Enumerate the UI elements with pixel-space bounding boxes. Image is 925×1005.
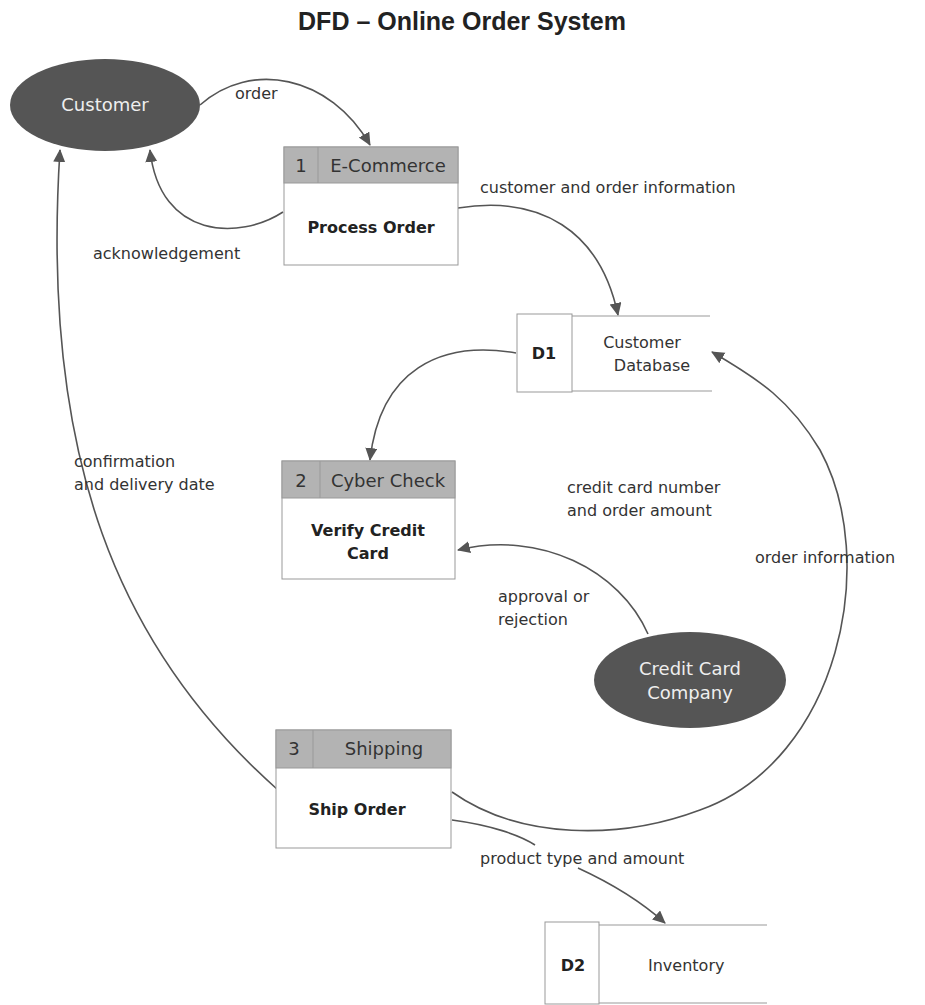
- data-store-d2-name: Inventory: [648, 956, 724, 975]
- process-3-ship-order[interactable]: 3 Shipping Ship Order: [276, 730, 451, 848]
- process-2-name-1: Verify Credit: [311, 521, 425, 540]
- data-store-d1-name-1: Customer: [603, 333, 681, 352]
- entity-ccc-label-1: Credit Card: [639, 658, 741, 679]
- flow-label-credit-card-number-1: credit card number: [567, 478, 721, 497]
- process-3-owner: Shipping: [345, 738, 424, 759]
- process-1-number: 1: [295, 155, 306, 176]
- data-store-d1-id: D1: [532, 344, 556, 363]
- process-1-owner: E-Commerce: [330, 155, 446, 176]
- process-2-verify-credit-card[interactable]: 2 Cyber Check Verify Credit Card: [282, 461, 455, 579]
- entity-credit-card-company[interactable]: Credit Card Company: [594, 632, 786, 728]
- process-3-number: 3: [288, 738, 299, 759]
- flow-label-order: order: [235, 84, 278, 103]
- flow-label-order-information: order information: [755, 548, 895, 567]
- entity-ccc-label-2: Company: [647, 682, 733, 703]
- flow-label-approval-1: approval or: [498, 587, 590, 606]
- data-store-d1-name-2: Database: [614, 356, 690, 375]
- flow-label-acknowledgement: acknowledgement: [93, 244, 240, 263]
- flow-label-customer-order-info: customer and order information: [480, 178, 736, 197]
- data-store-d1-customer-database[interactable]: D1 Customer Database: [517, 314, 712, 392]
- process-1-process-order[interactable]: 1 E-Commerce Process Order: [284, 147, 458, 265]
- flow-label-approval-2: rejection: [498, 610, 568, 629]
- entity-customer-label: Customer: [61, 94, 149, 115]
- diagram-title: DFD – Online Order System: [298, 7, 626, 35]
- flow-order: [200, 79, 370, 145]
- data-store-d2-id: D2: [561, 956, 585, 975]
- process-1-name: Process Order: [307, 218, 434, 237]
- entity-customer[interactable]: Customer: [10, 59, 200, 151]
- flow-credit-card-number: [370, 350, 516, 460]
- flow-acknowledgement: [150, 150, 283, 228]
- process-3-name: Ship Order: [308, 800, 405, 819]
- process-2-name-2: Card: [347, 544, 389, 563]
- process-2-owner: Cyber Check: [331, 470, 446, 491]
- dfd-diagram: DFD – Online Order System order acknowle…: [0, 0, 925, 1005]
- data-store-d2-inventory[interactable]: D2 Inventory: [545, 922, 767, 1004]
- flow-label-confirmation-1: confirmation: [74, 452, 175, 471]
- process-2-number: 2: [295, 470, 306, 491]
- flow-customer-order-info: [458, 205, 618, 315]
- flow-product-type-b: [578, 868, 665, 923]
- flow-label-credit-card-number-2: and order amount: [567, 501, 712, 520]
- flow-label-confirmation-2: and delivery date: [74, 475, 215, 494]
- flow-label-product-type: product type and amount: [480, 849, 684, 868]
